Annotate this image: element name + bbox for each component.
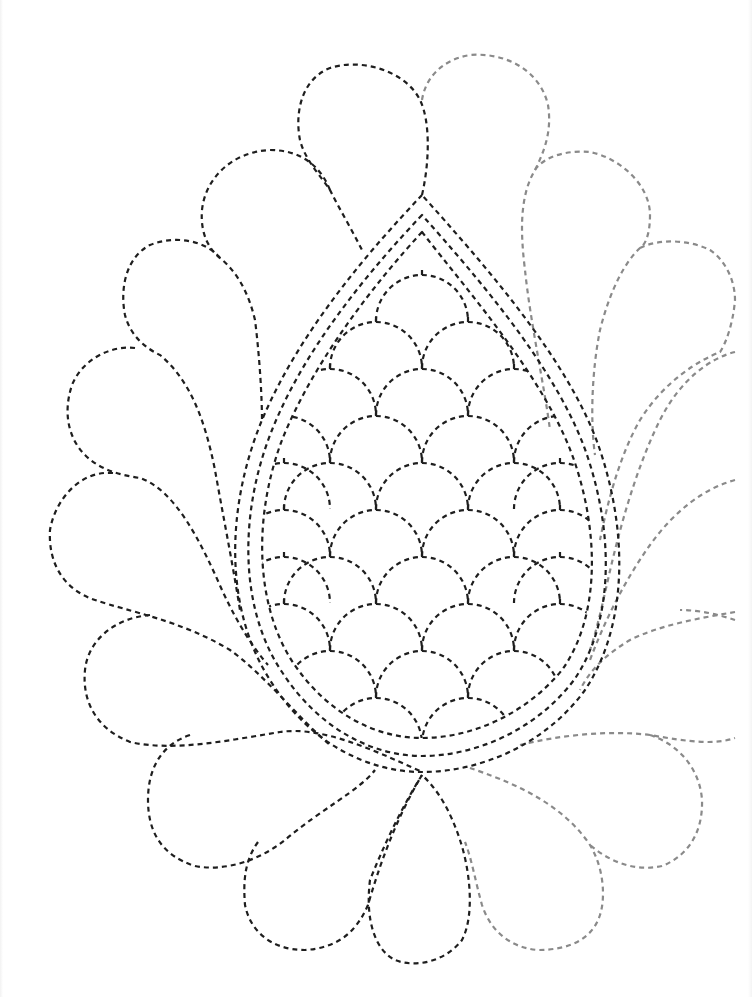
scale-arc: [422, 416, 514, 462]
scale-arc: [376, 369, 468, 415]
scale-arc: [468, 557, 560, 603]
scale-arc: [514, 510, 606, 556]
feather-left-3: [123, 240, 240, 610]
feather-right-4: [590, 352, 735, 650]
scale-arc: [284, 651, 376, 697]
scale-arc: [238, 416, 330, 462]
feather-bottom-center: [369, 775, 470, 963]
right-feather-plumes: [422, 55, 735, 950]
feather-right-5: [590, 480, 735, 660]
scale-arc: [330, 416, 422, 462]
feather-top-left-upper: [298, 65, 427, 250]
scale-arc: [468, 651, 560, 697]
scale-arc: [238, 463, 330, 509]
scale-arc: [330, 604, 422, 650]
scale-arc: [422, 510, 514, 556]
feather-right-6: [580, 610, 735, 690]
scale-arc: [376, 275, 468, 321]
feather-left-4: [68, 348, 268, 665]
scale-arc: [376, 463, 468, 509]
quilt-pattern-canvas: [0, 0, 752, 997]
scale-arc: [284, 369, 376, 415]
feather-top-left-2: [202, 150, 330, 420]
scale-arc: [376, 557, 468, 603]
feather-right-8: [465, 768, 603, 950]
left-feather-plumes: [50, 65, 470, 964]
feather-bottom-left-2: [244, 775, 422, 950]
scale-arc: [422, 604, 514, 650]
scale-arc: [238, 510, 330, 556]
scale-arc: [422, 322, 514, 368]
feather-right-7: [520, 733, 735, 868]
feather-right-3: [600, 241, 735, 540]
feather-bottom-left-1: [148, 735, 375, 868]
scale-arc: [468, 463, 560, 509]
scale-arc: [376, 651, 468, 697]
scale-arc: [330, 322, 422, 368]
feather-left-6: [85, 615, 422, 772]
scale-arc: [330, 510, 422, 556]
